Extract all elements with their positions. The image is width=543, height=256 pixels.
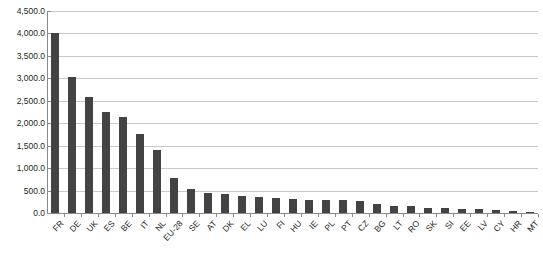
x-axis-tick-mark bbox=[301, 214, 302, 217]
bar bbox=[187, 189, 195, 213]
x-axis-tick-mark bbox=[419, 214, 420, 217]
bar bbox=[85, 97, 93, 213]
y-axis-tick-label: 1,500.0 bbox=[1, 142, 45, 151]
x-axis-tick-label: UK bbox=[85, 219, 100, 234]
x-axis-tick-label: LV bbox=[476, 219, 489, 232]
bar bbox=[136, 134, 144, 213]
x-axis-tick-label: HR bbox=[508, 219, 523, 234]
x-axis-tick-label: HU bbox=[288, 219, 303, 234]
y-axis-tick-label: 3,000.0 bbox=[1, 74, 45, 83]
y-axis-tick-label: 0.0 bbox=[1, 209, 45, 218]
x-axis-tick-label: CZ bbox=[357, 219, 371, 233]
x-axis-tick-mark bbox=[335, 214, 336, 217]
bar bbox=[526, 212, 534, 213]
y-axis-tick-labels: 4,500.04,000.03,500.03,000.02,500.02,000… bbox=[0, 0, 45, 256]
x-axis-tick-mark bbox=[216, 214, 217, 217]
x-axis-tick-mark bbox=[284, 214, 285, 217]
bar bbox=[51, 33, 59, 213]
x-axis-tick-label: MT bbox=[525, 219, 540, 234]
bar bbox=[424, 208, 432, 213]
bar bbox=[407, 206, 415, 213]
bar bbox=[255, 197, 263, 213]
x-axis-tick-mark bbox=[521, 214, 522, 217]
bar bbox=[204, 193, 212, 213]
x-axis-tick-mark bbox=[166, 214, 167, 217]
y-axis-tick-label: 500.0 bbox=[1, 187, 45, 196]
x-axis-tick-label: LU bbox=[255, 219, 269, 233]
bar bbox=[153, 150, 161, 213]
x-axis-tick-label: DK bbox=[221, 219, 236, 234]
bar bbox=[441, 208, 449, 213]
bar bbox=[221, 194, 229, 213]
x-axis-tick-label: PT bbox=[340, 219, 354, 233]
x-axis-tick-mark bbox=[453, 214, 454, 217]
x-axis-tick-mark bbox=[267, 214, 268, 217]
bar bbox=[170, 178, 178, 213]
x-axis-tick-label: SK bbox=[424, 219, 438, 233]
x-axis-tick-mark bbox=[115, 214, 116, 217]
x-axis-tick-label: FI bbox=[275, 219, 287, 231]
bar bbox=[509, 211, 517, 213]
bar bbox=[272, 198, 280, 213]
x-axis-tick-mark bbox=[318, 214, 319, 217]
x-axis-tick-mark bbox=[538, 214, 539, 217]
y-axis-tick-label: 3,500.0 bbox=[1, 52, 45, 61]
y-axis-tick-label: 1,000.0 bbox=[1, 164, 45, 173]
x-axis-tick-label: EE bbox=[458, 219, 472, 233]
bar bbox=[305, 200, 313, 213]
x-axis-tick-label: SE bbox=[187, 219, 201, 233]
bar bbox=[68, 77, 76, 213]
bar bbox=[373, 204, 381, 213]
x-axis-tick-mark bbox=[436, 214, 437, 217]
bar bbox=[356, 201, 364, 213]
x-axis-tick-mark bbox=[98, 214, 99, 217]
x-axis-tick-label: BE bbox=[120, 219, 134, 233]
bar bbox=[119, 117, 127, 214]
bar-chart: 4,500.04,000.03,500.03,000.02,500.02,000… bbox=[0, 0, 543, 256]
x-axis-tick-mark bbox=[470, 214, 471, 217]
x-axis-tick-mark bbox=[352, 214, 353, 217]
x-axis-tick-mark bbox=[149, 214, 150, 217]
x-axis-tick-mark bbox=[233, 214, 234, 217]
y-axis-tick-label: 4,000.0 bbox=[1, 29, 45, 38]
bar bbox=[102, 112, 110, 213]
x-axis-tick-label: BG bbox=[373, 219, 388, 234]
x-axis-tick-mark bbox=[250, 214, 251, 217]
x-axis-tick-label: EL bbox=[239, 219, 253, 233]
x-axis-tick-label: DE bbox=[68, 219, 83, 234]
x-axis-tick-label: FR bbox=[52, 219, 66, 233]
bar bbox=[475, 209, 483, 213]
x-axis-tick-mark bbox=[504, 214, 505, 217]
x-axis-tick-label: RO bbox=[406, 219, 421, 234]
x-axis-tick-mark bbox=[199, 214, 200, 217]
bar bbox=[339, 200, 347, 213]
x-axis-tick-mark bbox=[369, 214, 370, 217]
x-axis-tick-label: AT bbox=[205, 219, 219, 233]
bar bbox=[238, 196, 246, 214]
bar bbox=[390, 206, 398, 213]
y-axis-tick-label: 4,500.0 bbox=[1, 7, 45, 16]
bar bbox=[322, 200, 330, 213]
x-axis-tick-label: SI bbox=[444, 219, 456, 231]
x-axis-tick-label: IE bbox=[308, 219, 320, 231]
x-axis-tick-mark bbox=[386, 214, 387, 217]
x-axis-tick-labels: FRDEUKESBEITNLEU-28SEATDKELLUFIHUIEPLPTC… bbox=[47, 214, 538, 256]
x-axis-tick-label: IT bbox=[139, 219, 151, 231]
x-axis-tick-mark bbox=[64, 214, 65, 217]
bar bbox=[289, 199, 297, 213]
x-axis-tick-label: LT bbox=[392, 219, 405, 232]
x-axis-tick-mark bbox=[81, 214, 82, 217]
y-axis-tick-label: 2,000.0 bbox=[1, 119, 45, 128]
chart-bars bbox=[47, 11, 538, 213]
x-axis-tick-mark bbox=[132, 214, 133, 217]
x-axis-tick-label: ES bbox=[103, 219, 117, 233]
x-axis-tick-mark bbox=[487, 214, 488, 217]
y-axis-tick-label: 2,500.0 bbox=[1, 97, 45, 106]
bar bbox=[492, 210, 500, 213]
x-axis-tick-label: CY bbox=[492, 219, 507, 234]
bar bbox=[458, 209, 466, 213]
x-axis-tick-mark bbox=[182, 214, 183, 217]
x-axis-tick-mark bbox=[403, 214, 404, 217]
x-axis-tick-label: PL bbox=[323, 219, 337, 233]
